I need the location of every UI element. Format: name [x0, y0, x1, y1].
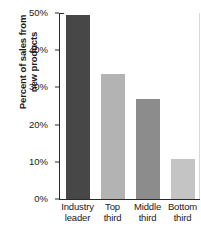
y-axis-tick-label: 0%: [34, 194, 48, 204]
bar[interactable]: [171, 159, 195, 199]
bar[interactable]: [101, 74, 125, 199]
x-axis-tick-label: Bottomthird: [162, 201, 201, 223]
bar-chart: Percent of sales from new products 0%10%…: [0, 0, 201, 236]
y-axis-tick-mark: [55, 50, 59, 51]
bar-slot: [165, 13, 200, 199]
y-axis-tick-mark: [55, 13, 59, 14]
bar-slot: [60, 13, 95, 199]
y-axis-tick-label: 40%: [29, 45, 48, 55]
y-axis-tick-mark: [55, 199, 59, 200]
x-axis-tick-label-line: third: [162, 212, 201, 223]
x-axis-tick-label-line: Bottom: [162, 201, 201, 212]
bar[interactable]: [66, 15, 90, 199]
bar-slot: [95, 13, 130, 199]
x-axis-line: [59, 199, 200, 200]
y-axis-tick-label: 50%: [29, 8, 48, 18]
plot-area: [60, 13, 200, 199]
y-axis-tick-mark: [55, 161, 59, 162]
y-axis-tick-mark: [55, 87, 59, 88]
y-axis-tick-labels: 0%10%20%30%40%50%: [0, 0, 56, 236]
y-axis-tick-label: 20%: [29, 120, 48, 130]
bar[interactable]: [136, 99, 160, 199]
y-axis-tick-label: 10%: [29, 157, 48, 167]
bar-slot: [130, 13, 165, 199]
x-axis-tick-labels: IndustryleaderTopthirdMiddlethirdBottomt…: [60, 201, 200, 233]
y-axis-tick-label: 30%: [29, 82, 48, 92]
y-axis-tick-mark: [55, 124, 59, 125]
